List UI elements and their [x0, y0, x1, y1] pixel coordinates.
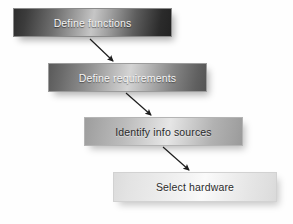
flowchart-node-identify-info-sources[interactable]: Identify info sources	[84, 117, 243, 146]
flowchart-node-label: Define requirements	[79, 72, 176, 84]
flowchart-arrow-1	[90, 39, 113, 61]
flowchart-node-label: Select hardware	[156, 181, 234, 193]
flowchart-node-select-hardware[interactable]: Select hardware	[113, 172, 277, 202]
flowchart-node-define-functions[interactable]: Define functions	[13, 8, 172, 37]
flowchart-node-define-requirements[interactable]: Define requirements	[48, 63, 207, 92]
flowchart-arrow-3	[163, 147, 189, 170]
flowchart-arrow-2	[126, 93, 151, 115]
flowchart-node-label: Identify info sources	[115, 126, 212, 138]
flowchart-node-label: Define functions	[54, 17, 132, 29]
flowchart-diagram: Define functions Define requirements Ide…	[0, 0, 293, 224]
